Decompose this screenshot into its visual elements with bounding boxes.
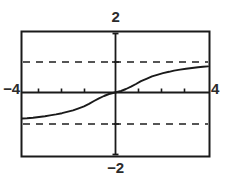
x-max-label: 4: [211, 81, 230, 96]
y-max-label: 2: [0, 9, 231, 24]
function-plot: [0, 0, 231, 181]
x-min-label: −4: [1, 81, 20, 96]
y-min-label: −2: [0, 160, 231, 175]
graph-screenshot: 2 −2 −4 4: [0, 0, 231, 181]
